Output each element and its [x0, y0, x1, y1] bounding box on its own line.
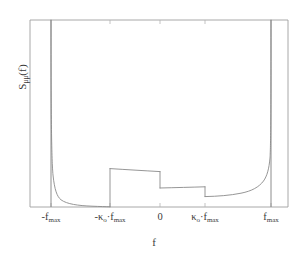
spectrum-curve: [51, 20, 271, 207]
x-tick-label-neg-fmax-text: -f: [42, 211, 49, 222]
curve-left-decay: [51, 20, 110, 207]
x-tick-label-neg-kappa-fmax: -κo·fmax: [95, 212, 126, 224]
y-axis-label: Sμμ(f): [16, 32, 30, 122]
y-axis-label-argument: (f): [16, 64, 28, 76]
x-tick-label-neg-fmax: -fmax: [42, 212, 61, 224]
x-axis-label: f: [0, 236, 308, 248]
curve-high-plateau: [110, 169, 160, 172]
x-tick-label-neg-kappa-text: -κ: [95, 211, 104, 222]
tick-marks: [51, 20, 271, 207]
x-tick-label-pos-fmax-sub: max: [267, 216, 279, 224]
curve-mid-plateau: [160, 187, 205, 188]
x-tick-label-neg-fmax-sub: max: [49, 216, 61, 224]
y-axis-label-symbol: S: [16, 83, 28, 89]
y-axis-label-subscript: μμ: [21, 76, 30, 84]
x-tick-label-pos-fmax: fmax: [263, 212, 278, 224]
x-tick-label-zero: 0: [157, 212, 162, 223]
plot-frame: [30, 20, 288, 207]
x-tick-label-pos-kappa-fmax: κo·fmax: [191, 212, 218, 224]
figure-container: Sμμ(f) -fmax -κo·fmax 0 κo·fmax fmax f: [0, 0, 308, 259]
asymptote-lines: [51, 20, 271, 207]
x-tick-label-pos-kappa-tail: ·f: [200, 211, 207, 222]
x-tick-label-neg-kappa-tail-sub: max: [114, 216, 126, 224]
curve-right-rise: [205, 20, 271, 197]
x-tick-label-pos-kappa-tail-sub: max: [207, 216, 219, 224]
x-tick-label-zero-text: 0: [157, 211, 162, 222]
